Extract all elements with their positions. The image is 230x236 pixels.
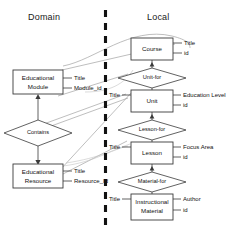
er-mapping-diagram: Domain Local Educational Module — [0, 0, 230, 236]
arrowhead-course-to-unitfor — [150, 62, 155, 67]
entity-educational-module-label-line2: Module — [28, 83, 49, 90]
attribute-material-title: Title — [109, 196, 121, 202]
attribute-unit-education-level: Education Level — [183, 92, 226, 98]
entity-educational-module-label-line1: Educational — [22, 74, 54, 81]
attribute-course-title: Title — [184, 40, 196, 46]
arrowhead-lesson-to-materialfor — [150, 166, 155, 171]
attribute-course-id: id — [184, 50, 189, 56]
attribute-material-id: id — [183, 207, 188, 213]
arrowhead-unit-to-lessonfor — [150, 114, 155, 119]
connector-lesson-to-materialfor — [150, 164, 155, 172]
attribute-unit-title: Title — [109, 92, 121, 98]
entity-instructional-material-label-line2: Material — [141, 207, 163, 214]
attribute-module-title: Title — [74, 75, 86, 81]
attribute-resource-id: Resource_Id — [74, 178, 108, 184]
relationship-contains-label: Contains — [27, 129, 49, 135]
attribute-unit-id: id — [183, 102, 188, 108]
entity-course-label: Course — [142, 45, 163, 52]
relationship-lesson-for[interactable]: Lesson-for — [118, 120, 186, 140]
relationship-material-for[interactable]: Material-for — [118, 172, 186, 192]
relationship-unit-for[interactable]: Unit-for — [118, 68, 186, 88]
entity-educational-resource-label-line1: Educational — [22, 168, 54, 175]
entity-course[interactable]: Course — [131, 38, 173, 60]
entity-unit-label: Unit — [146, 97, 157, 104]
attribute-lesson-focus-area: Focus Area — [183, 144, 214, 150]
attribute-group-educational-resource: Title Resource_Id — [63, 168, 108, 184]
connector-contains-to-module — [35, 94, 40, 120]
relationship-unit-for-label: Unit-for — [143, 74, 161, 80]
connector-unit-to-lessonfor — [150, 112, 155, 120]
connector-contains-to-resource — [35, 146, 40, 165]
entity-educational-resource[interactable]: Educational Resource — [13, 164, 63, 188]
arrowhead-contains-to-module — [35, 94, 40, 99]
entity-unit[interactable]: Unit — [131, 90, 173, 112]
attribute-material-author: Author — [183, 196, 201, 202]
relationship-contains[interactable]: Contains — [4, 120, 72, 146]
entity-lesson-label: Lesson — [142, 149, 163, 156]
entity-instructional-material-label-line1: Instructional — [135, 198, 168, 205]
attribute-group-educational-module: Title Module_id — [63, 75, 102, 91]
attribute-lesson-id: id — [183, 154, 188, 160]
relationship-material-for-label: Material-for — [138, 178, 166, 184]
entity-educational-resource-label-line2: Resource — [25, 177, 52, 184]
attribute-module-id: Module_id — [74, 85, 102, 91]
entity-educational-module[interactable]: Educational Module — [13, 70, 63, 94]
entity-instructional-material[interactable]: Instructional Material — [131, 194, 173, 220]
attribute-group-course: Title id — [173, 40, 196, 56]
entity-lesson[interactable]: Lesson — [131, 142, 173, 164]
attribute-resource-title: Title — [74, 168, 86, 174]
attribute-lesson-title: Title — [109, 144, 121, 150]
relationship-lesson-for-label: Lesson-for — [139, 126, 166, 132]
